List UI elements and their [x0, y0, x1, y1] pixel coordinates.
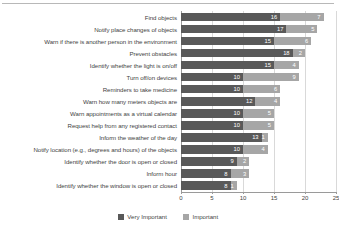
bar-value-label: 10 — [234, 110, 240, 116]
stacked-bar[interactable]: 105 — [181, 109, 336, 118]
bar-segment[interactable]: 6 — [274, 37, 311, 46]
bar-segment[interactable]: 15 — [181, 61, 274, 70]
bar-row: Reminders to take medicine106 — [0, 83, 336, 95]
bar-segment[interactable]: 2 — [237, 157, 249, 166]
stacked-bar[interactable]: 154 — [181, 61, 336, 70]
bar-container: 105 — [181, 119, 336, 131]
bar-row: Request help from any registered contact… — [0, 119, 336, 131]
bar-segment[interactable]: 1 — [231, 181, 237, 190]
bar-value-label: 4 — [262, 146, 265, 152]
x-tick — [305, 192, 306, 194]
category-label: Inform hour — [0, 170, 181, 177]
bar-value-label: 6 — [274, 86, 277, 92]
bar-segment[interactable]: 18 — [181, 49, 293, 58]
legend-swatch-icon — [118, 214, 124, 220]
bar-row: Inform the weather of the day131 — [0, 131, 336, 143]
bar-segment[interactable]: 10 — [181, 109, 243, 118]
stacked-bar[interactable]: 83 — [181, 169, 336, 178]
stacked-bar[interactable]: 167 — [181, 13, 336, 22]
bar-segment[interactable]: 6 — [243, 85, 280, 94]
bar-container: 167 — [181, 11, 336, 23]
bar-container: 83 — [181, 168, 336, 180]
x-tick-label: 0 — [179, 195, 182, 202]
bar-value-label: 6 — [305, 38, 308, 44]
bar-value-label: 7 — [317, 14, 320, 20]
bar-segment[interactable]: 5 — [286, 25, 317, 34]
bar-value-label: 10 — [234, 86, 240, 92]
bar-value-label: 10 — [234, 122, 240, 128]
legend-label: Important — [192, 213, 218, 220]
bar-value-label: 4 — [274, 98, 277, 104]
stacked-bar[interactable]: 109 — [181, 73, 336, 82]
category-label: Warn if there is another person in the e… — [0, 38, 181, 45]
bar-segment[interactable]: 10 — [181, 85, 243, 94]
bar-value-label: 8 — [224, 183, 227, 189]
legend-item[interactable]: Very Important — [118, 213, 167, 220]
bar-row: Inform hour83 — [0, 168, 336, 180]
bar-container: 131 — [181, 131, 336, 143]
bar-value-label: 1 — [231, 183, 234, 189]
bar-container: 81 — [181, 180, 336, 192]
bar-segment[interactable]: 10 — [181, 145, 243, 154]
stacked-bar[interactable]: 81 — [181, 181, 336, 190]
bar-container: 182 — [181, 47, 336, 59]
bar-segment[interactable]: 4 — [274, 61, 299, 70]
bar-row: Warn appointments as a virtual calendar1… — [0, 107, 336, 119]
bar-row: Find objects167 — [0, 11, 336, 23]
bar-value-label: 5 — [268, 110, 271, 116]
x-axis-line — [181, 192, 336, 193]
bar-value-label: 9 — [231, 158, 234, 164]
bar-segment[interactable]: 16 — [181, 13, 280, 22]
x-tick-label: 5 — [210, 195, 213, 202]
stacked-bar[interactable]: 156 — [181, 37, 336, 46]
bar-row: Notify location (e.g., degrees and hours… — [0, 144, 336, 156]
stacked-bar[interactable]: 124 — [181, 97, 336, 106]
category-label: Find objects — [0, 14, 181, 21]
bar-segment[interactable]: 4 — [255, 97, 280, 106]
bar-segment[interactable]: 13 — [181, 133, 262, 142]
bar-segment[interactable]: 12 — [181, 97, 255, 106]
stacked-bar[interactable]: 104 — [181, 145, 336, 154]
bar-segment[interactable]: 17 — [181, 25, 286, 34]
bar-segment[interactable]: 5 — [243, 109, 274, 118]
bar-value-label: 8 — [224, 171, 227, 177]
bar-container: 105 — [181, 107, 336, 119]
stacked-bar[interactable]: 175 — [181, 25, 336, 34]
stacked-bar[interactable]: 131 — [181, 133, 336, 142]
category-label: Prevent obstacles — [0, 50, 181, 57]
bar-value-label: 2 — [299, 50, 302, 56]
bar-container: 124 — [181, 95, 336, 107]
bar-segment[interactable]: 15 — [181, 37, 274, 46]
stacked-bar[interactable]: 106 — [181, 85, 336, 94]
stacked-bar[interactable]: 182 — [181, 49, 336, 58]
legend-item[interactable]: Important — [183, 213, 218, 220]
bar-value-label: 18 — [283, 50, 289, 56]
x-tick — [243, 192, 244, 194]
bar-value-label: 17 — [277, 26, 283, 32]
bar-row: Identify whether the door is open or clo… — [0, 156, 336, 168]
bar-segment[interactable]: 1 — [262, 133, 268, 142]
bar-value-label: 4 — [293, 62, 296, 68]
bar-segment[interactable]: 2 — [293, 49, 305, 58]
bar-segment[interactable]: 9 — [243, 73, 299, 82]
bar-segment[interactable]: 10 — [181, 73, 243, 82]
bar-value-label: 1 — [262, 134, 265, 140]
bar-segment[interactable]: 3 — [231, 169, 250, 178]
bar-segment[interactable]: 8 — [181, 169, 231, 178]
category-label: Identify whether the door is open or clo… — [0, 158, 181, 165]
category-label: Warn how many meters objects are — [0, 98, 181, 105]
bar-segment[interactable]: 8 — [181, 181, 231, 190]
x-tick-label: 10 — [240, 195, 247, 202]
bar-container: 104 — [181, 144, 336, 156]
bar-segment[interactable]: 10 — [181, 121, 243, 130]
stacked-bar[interactable]: 105 — [181, 121, 336, 130]
bar-segment[interactable]: 7 — [280, 13, 323, 22]
category-label: Identify whether the window is open or c… — [0, 182, 181, 189]
bar-segment[interactable]: 5 — [243, 121, 274, 130]
bar-segment[interactable]: 9 — [181, 157, 237, 166]
bar-value-label: 12 — [246, 98, 252, 104]
stacked-bar[interactable]: 92 — [181, 157, 336, 166]
bar-segment[interactable]: 4 — [243, 145, 268, 154]
x-axis: 0510152025 — [181, 192, 336, 204]
